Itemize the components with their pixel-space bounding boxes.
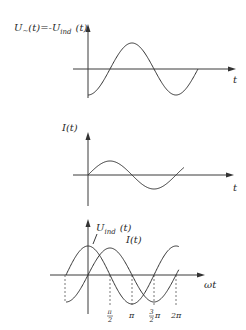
y-axis-label-current: I(t) bbox=[61, 122, 78, 133]
svg-text:3: 3 bbox=[150, 308, 154, 316]
tick-two-pi: 2π bbox=[170, 311, 182, 320]
svg-text:π: π bbox=[154, 311, 161, 320]
graph-voltage-source: U~(t)=-Uind(t) t bbox=[14, 22, 238, 98]
x-axis-label-t: t bbox=[233, 182, 238, 193]
svg-text:2: 2 bbox=[149, 316, 154, 324]
tick-three-half-pi: 3 2 π bbox=[149, 308, 162, 324]
y-axis-label-voltage: U~(t)=-Uind(t) bbox=[14, 22, 87, 36]
x-axis-label-t: t bbox=[233, 74, 238, 85]
graph-current: I(t) t bbox=[61, 122, 238, 206]
diagram-canvas: U~(t)=-Uind(t) t I(t) t ωt Uin bbox=[0, 0, 246, 330]
leader-line-induced-voltage bbox=[93, 234, 97, 244]
y-axis-arrow-icon bbox=[86, 219, 91, 227]
svg-text:π: π bbox=[107, 308, 113, 316]
x-axis-label-omega-t: ωt bbox=[204, 279, 217, 290]
svg-text:2: 2 bbox=[107, 316, 112, 324]
x-axis-arrow-icon bbox=[197, 273, 205, 278]
tick-pi-half: π 2 bbox=[107, 308, 114, 324]
graph-phase-comparison: ωt Uind(t) I(t) π 2 π 3 2 π 2π bbox=[50, 219, 217, 324]
y-axis-arrow-icon bbox=[86, 132, 91, 140]
x-axis-arrow-icon bbox=[226, 173, 234, 178]
x-axis-arrow-icon bbox=[228, 67, 236, 72]
label-current: I(t) bbox=[125, 234, 142, 245]
tick-pi: π bbox=[128, 311, 135, 320]
